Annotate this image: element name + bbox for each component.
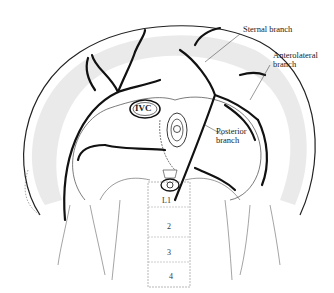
label-posterior-line2: branch — [216, 136, 239, 145]
esophageal-hiatus — [167, 113, 187, 147]
aortic-hiatus — [161, 179, 179, 191]
vertebra-label-4: 4 — [169, 272, 173, 281]
vertebra-label-3: 3 — [167, 248, 171, 257]
label-ivc: IVC — [135, 104, 152, 113]
vertebra-label-2: 2 — [167, 222, 171, 231]
right-crus — [185, 178, 240, 200]
left-crus — [100, 178, 150, 200]
label-anterolateral-line2: branch — [273, 60, 296, 69]
vertebra-label-l1: L1 — [162, 196, 171, 205]
label-sternal-branch: Sternal branch — [243, 25, 292, 34]
